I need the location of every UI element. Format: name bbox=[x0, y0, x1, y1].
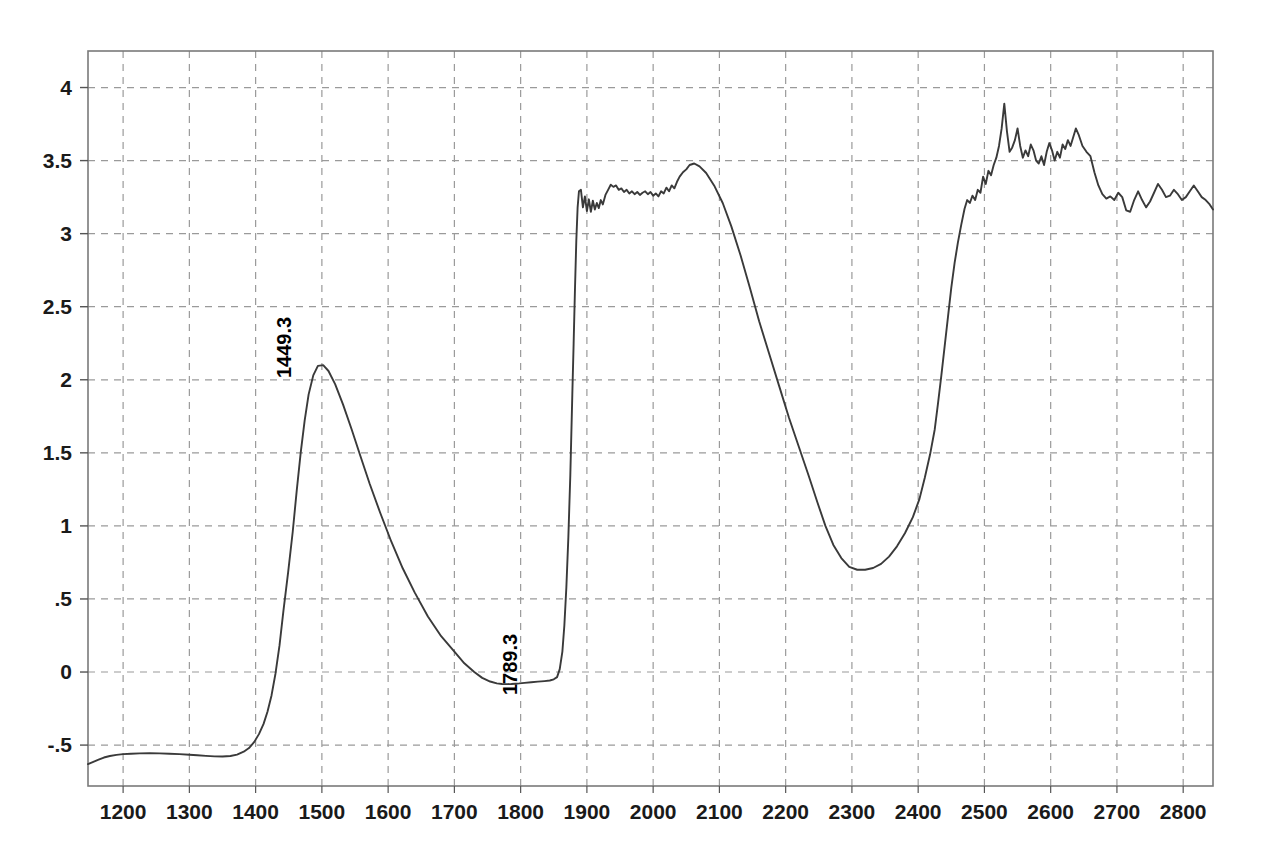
plot-svg bbox=[0, 0, 1262, 850]
x-axis-tick-label: 1200 bbox=[100, 800, 147, 824]
y-axis-tick-label: 2.5 bbox=[0, 295, 72, 319]
x-axis-tick-label: 1600 bbox=[365, 800, 412, 824]
y-axis-tick-label: -.5 bbox=[0, 733, 72, 757]
y-axis-tick-label: .5 bbox=[0, 587, 72, 611]
x-axis-tick-label: 2400 bbox=[895, 800, 942, 824]
peak-annotation: 1789.3 bbox=[499, 634, 522, 695]
y-axis-tick-label: 3 bbox=[0, 222, 72, 246]
peak-annotation: 1449.3 bbox=[273, 317, 296, 378]
x-axis-tick-label: 2800 bbox=[1160, 800, 1207, 824]
spectrum-line bbox=[88, 104, 1213, 764]
y-axis-tick-label: 1.5 bbox=[0, 441, 72, 465]
y-axis-tick-label: 2 bbox=[0, 368, 72, 392]
x-axis-tick-label: 1400 bbox=[232, 800, 279, 824]
x-axis-tick-label: 2600 bbox=[1027, 800, 1074, 824]
y-axis-tick-label: 1 bbox=[0, 514, 72, 538]
y-axis-tick-label: 3.5 bbox=[0, 149, 72, 173]
x-axis-tick-label: 1300 bbox=[166, 800, 213, 824]
x-axis-tick-label: 1900 bbox=[564, 800, 611, 824]
x-axis-tick-label: 2200 bbox=[762, 800, 809, 824]
x-axis-tick-label: 1500 bbox=[299, 800, 346, 824]
x-axis-tick-label: 2300 bbox=[829, 800, 876, 824]
x-axis-tick-label: 2100 bbox=[696, 800, 743, 824]
x-axis-tick-label: 2500 bbox=[961, 800, 1008, 824]
x-axis-tick-label: 1800 bbox=[497, 800, 544, 824]
data-curve bbox=[88, 104, 1213, 764]
tick-marks bbox=[80, 88, 1183, 793]
x-axis-tick-label: 2000 bbox=[630, 800, 677, 824]
x-axis-tick-label: 2700 bbox=[1094, 800, 1141, 824]
y-axis-tick-label: 0 bbox=[0, 660, 72, 684]
spectrum-chart: -.50.511.522.533.54 12001300140015001600… bbox=[0, 0, 1262, 850]
x-axis-tick-label: 1700 bbox=[431, 800, 478, 824]
y-axis-tick-label: 4 bbox=[0, 76, 72, 100]
